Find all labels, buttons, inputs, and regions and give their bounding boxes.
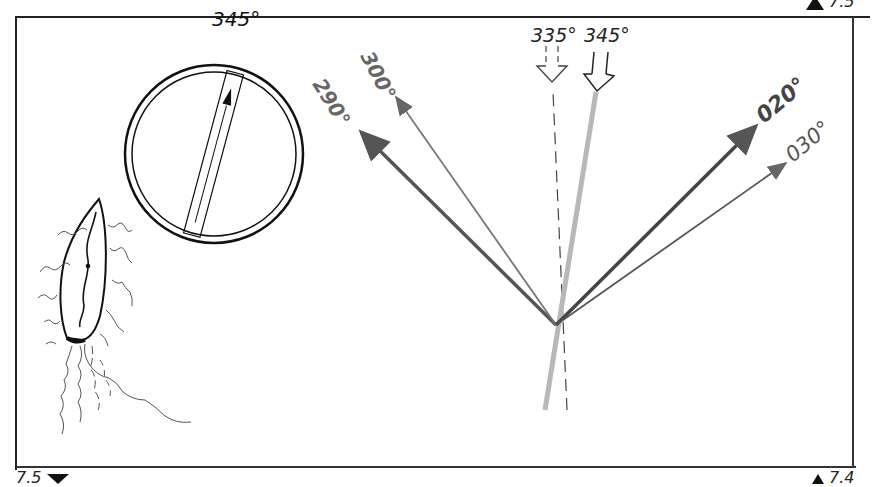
course-arrows (361, 92, 786, 410)
sailboat (38, 199, 191, 434)
bearing-label-345: 345° (584, 24, 630, 46)
bearing-labels: 335° 345° 290° 300° 020° 030° (308, 24, 835, 167)
hollow-arrow-335-icon (537, 46, 567, 82)
course-line-345 (545, 92, 596, 410)
hollow-arrow-345-icon (584, 52, 614, 91)
course-arrow-030 (556, 163, 786, 325)
bearing-label-290: 290° (308, 74, 356, 131)
figure-frame (16, 17, 870, 470)
course-arrow-290 (361, 132, 556, 325)
bearing-label-020: 020° (751, 72, 811, 128)
bearing-label-300: 300° (356, 47, 401, 104)
compass: 345° (125, 7, 303, 243)
course-arrow-300 (396, 97, 556, 325)
bearing-label-030: 030° (781, 116, 835, 167)
boat-wake (38, 223, 191, 434)
bearing-label-335: 335° (531, 24, 577, 46)
compass-heading-label: 345° (212, 7, 260, 31)
bearing-pointers (537, 46, 614, 91)
